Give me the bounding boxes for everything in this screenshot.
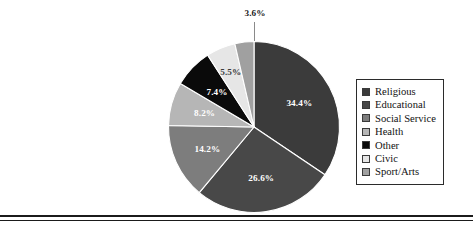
legend-item: Civic [362, 152, 436, 165]
legend-swatch-icon [362, 88, 370, 96]
pie-slice-value-label: 26.6% [248, 173, 274, 183]
legend-item-label: Religious [375, 85, 416, 98]
legend-swatch-icon [362, 128, 370, 136]
legend-swatch-icon [362, 101, 370, 109]
legend-item-label: Educational [375, 98, 426, 111]
slice-callout-leader-line [254, 22, 255, 43]
footer-rule-thick [0, 215, 473, 217]
legend-swatch-icon [362, 141, 370, 149]
pie-slice-value-label: 34.4% [286, 98, 312, 108]
pie-slice-value-label: 14.2% [194, 144, 220, 154]
legend-item-label: Civic [375, 152, 398, 165]
legend-swatch-icon [362, 168, 370, 176]
legend-item: Educational [362, 98, 436, 111]
legend-item: Health [362, 125, 436, 138]
pie-slice-value-label: 5.5% [220, 67, 241, 77]
pie-slice-value-label: 8.2% [194, 108, 215, 118]
pie-slice-layer [168, 42, 339, 213]
pie-chart: 34.4%26.6%14.2%8.2%7.4%5.5% [168, 41, 340, 213]
legend-item: Sport/Arts [362, 165, 436, 178]
legend-item: Social Service [362, 112, 436, 125]
footer-rule-thin [0, 220, 473, 221]
legend-item: Religious [362, 85, 436, 98]
slice-callout-label-sport-arts: 3.6% [224, 8, 286, 18]
legend-item: Other [362, 139, 436, 152]
legend-swatch-icon [362, 114, 370, 122]
legend: ReligiousEducationalSocial ServiceHealth… [356, 79, 444, 185]
legend-item-label: Social Service [375, 112, 436, 125]
pie-chart-svg: 34.4%26.6%14.2%8.2%7.4%5.5% [168, 41, 340, 213]
pie-slice-value-label: 7.4% [206, 87, 227, 97]
figure-page: 3.6% 34.4%26.6%14.2%8.2%7.4%5.5% Religio… [0, 0, 473, 238]
legend-item-label: Health [375, 125, 403, 138]
legend-swatch-icon [362, 155, 370, 163]
legend-item-label: Sport/Arts [375, 165, 419, 178]
legend-item-label: Other [375, 139, 399, 152]
